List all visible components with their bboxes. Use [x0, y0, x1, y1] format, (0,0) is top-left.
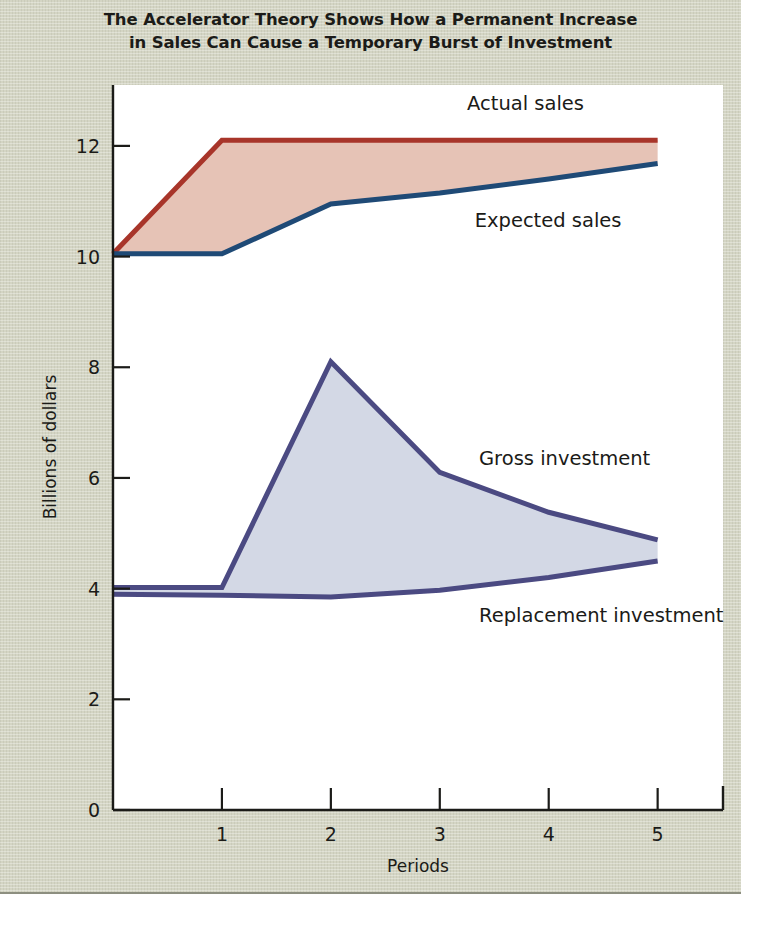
y-tick-label: 6	[88, 467, 100, 489]
x-tick-label: 2	[325, 823, 337, 845]
x-tick-label: 5	[652, 823, 664, 845]
series-label-replacement-investment: Replacement investment	[479, 604, 724, 627]
x-axis-title: Periods	[387, 856, 449, 876]
y-tick-label: 0	[88, 799, 100, 821]
series-label-gross-investment: Gross investment	[479, 447, 651, 470]
y-tick-label: 4	[88, 578, 100, 600]
y-tick-label: 2	[88, 688, 100, 710]
accelerator-theory-chart: 024681012 12345 Billions of dollars Peri…	[0, 0, 769, 894]
y-axis-title: Billions of dollars	[40, 375, 60, 520]
y-tick-label: 12	[76, 135, 100, 157]
x-tick-label: 1	[216, 823, 228, 845]
y-tick-label: 8	[88, 356, 100, 378]
y-tick-label: 10	[76, 246, 100, 268]
x-tick-label: 4	[543, 823, 555, 845]
figure-page: The Accelerator Theory Shows How a Perma…	[0, 0, 769, 927]
series-label-actual-sales: Actual sales	[467, 92, 584, 115]
series-label-expected-sales: Expected sales	[475, 209, 622, 232]
x-tick-label: 3	[434, 823, 446, 845]
plot-area-wrapper: 024681012 12345 Billions of dollars Peri…	[0, 0, 769, 894]
